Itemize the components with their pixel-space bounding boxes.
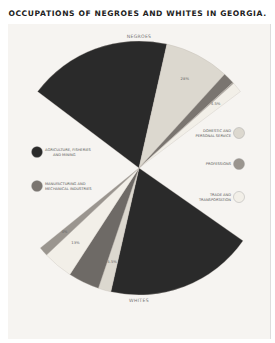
legend-label: PERSONAL SERVICE bbox=[196, 134, 232, 138]
legend-label: TRANSPORTATION bbox=[198, 198, 231, 202]
chart-svg: 28%4.5%NEGROES5.5%13%4%WHITESAGRICULTURE… bbox=[0, 0, 275, 343]
group-label-whites: WHITES bbox=[129, 298, 149, 303]
legend-swatch bbox=[32, 147, 43, 158]
legend-swatch bbox=[234, 128, 245, 139]
legend-swatch bbox=[234, 192, 245, 203]
legend-label: PROFESSIONS bbox=[206, 162, 232, 166]
group-label-negroes: NEGROES bbox=[127, 34, 152, 39]
legend-label: DOMESTIC AND bbox=[203, 129, 231, 133]
slice-percent-label: 5.5% bbox=[107, 259, 117, 264]
legend-label: AGRICULTURE, FISHERIES bbox=[45, 148, 91, 152]
slice-percent-label: 13% bbox=[71, 240, 80, 245]
legend-label: MECHANICAL INDUSTRIES bbox=[45, 187, 92, 191]
slice-percent-label: 4.5% bbox=[211, 101, 221, 106]
slice-percent-label: 4% bbox=[61, 229, 67, 234]
legend-label: AND MINING bbox=[53, 153, 76, 157]
legend-label: TRADE AND bbox=[209, 193, 231, 197]
slice-percent-label: 28% bbox=[181, 76, 190, 81]
legend-label: MANUFACTURING AND bbox=[45, 182, 86, 186]
legend-swatch bbox=[32, 181, 43, 192]
legend-swatch bbox=[234, 159, 245, 170]
